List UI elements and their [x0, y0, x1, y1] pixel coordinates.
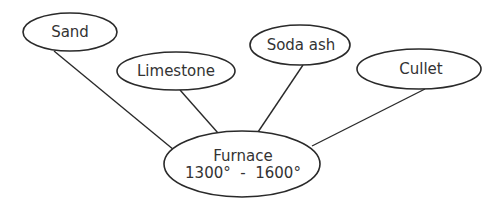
- node-soda-ash: Soda ash: [250, 25, 350, 65]
- node-soda-ash-label: Soda ash: [267, 36, 336, 54]
- node-sand: Sand: [23, 13, 117, 51]
- glass-making-diagram: Sand Limestone Soda ash Cullet Furnace 1…: [0, 0, 504, 202]
- node-cullet-label: Cullet: [399, 60, 443, 78]
- node-furnace: Furnace 1300° - 1600°: [164, 131, 320, 197]
- edge-soda-ash-furnace: [258, 65, 303, 132]
- node-cullet: Cullet: [357, 49, 481, 89]
- node-sand-label: Sand: [51, 23, 89, 41]
- node-furnace-temperature: 1300° - 1600°: [185, 164, 301, 182]
- node-furnace-label: Furnace: [213, 147, 272, 165]
- node-limestone: Limestone: [117, 52, 235, 90]
- node-limestone-label: Limestone: [137, 62, 215, 80]
- edge-cullet-furnace: [312, 89, 425, 146]
- edge-limestone-furnace: [180, 90, 218, 133]
